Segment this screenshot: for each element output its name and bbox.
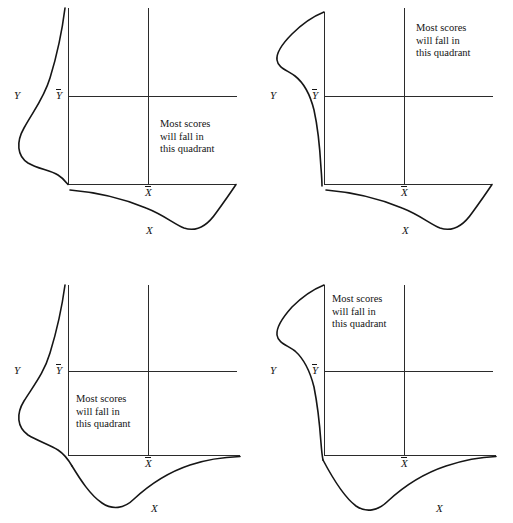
x-marginal-distribution-curve	[70, 185, 236, 230]
panel-diagram-bottom-left	[0, 261, 256, 522]
overbar	[312, 89, 317, 90]
overbar	[145, 186, 151, 187]
x-mean-label: X	[145, 458, 152, 469]
x-marginal-distribution-curve	[72, 457, 240, 508]
x-variable-label: X	[402, 225, 409, 236]
x-marginal-distribution-curve	[326, 185, 492, 230]
quadrant-panel-top-right: Y Y X X Most scores will fall in this qu…	[256, 0, 512, 261]
x-variable-label: X	[151, 503, 158, 514]
x-variable-label: X	[146, 225, 153, 236]
panel-diagram-top-right	[256, 0, 512, 261]
quadrant-panel-bottom-left: Y Y X X Most scores will fall in this qu…	[0, 261, 256, 522]
overbar	[312, 364, 317, 365]
y-mean-label: Y	[312, 365, 318, 376]
quadrant-annotation: Most scores will fall in this quadrant	[416, 22, 471, 60]
y-variable-label: Y	[14, 90, 20, 101]
x-variable-label: X	[436, 503, 443, 514]
y-mean-label: Y	[312, 90, 318, 101]
y-variable-label: Y	[270, 90, 276, 101]
x-mean-label: X	[401, 458, 408, 469]
quadrant-annotation: Most scores will fall in this quadrant	[160, 118, 215, 156]
x-marginal-distribution-curve	[323, 457, 496, 511]
y-marginal-distribution-curve	[19, 285, 72, 466]
quadrant-panel-bottom-right: Y Y X X Most scores will fall in this qu…	[256, 261, 512, 522]
x-mean-label: X	[145, 187, 152, 198]
quadrant-annotation: Most scores will fall in this quadrant	[332, 293, 387, 331]
overbar	[56, 89, 61, 90]
y-variable-label: Y	[270, 365, 276, 376]
y-variable-label: Y	[14, 365, 20, 376]
y-mean-label: Y	[56, 365, 62, 376]
x-mean-label: X	[401, 187, 408, 198]
figure-root: Y Y X X Most scores will fall in this qu…	[0, 0, 513, 523]
quadrant-panel-top-left: Y Y X X Most scores will fall in this qu…	[0, 0, 256, 261]
y-mean-label: Y	[56, 90, 62, 101]
overbar	[145, 457, 151, 458]
panel-diagram-top-left	[0, 0, 256, 261]
overbar	[401, 186, 407, 187]
overbar	[401, 457, 407, 458]
quadrant-annotation: Most scores will fall in this quadrant	[76, 393, 131, 431]
overbar	[56, 364, 61, 365]
